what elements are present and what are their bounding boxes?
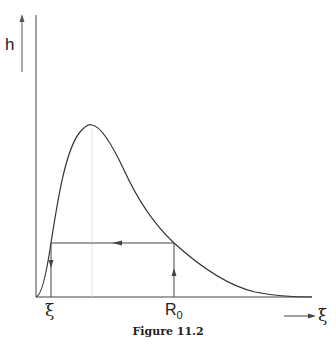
r0-marker-label: R0	[165, 301, 183, 321]
xi-axis-arrowhead-icon	[308, 314, 316, 319]
y-axis-label: h	[5, 35, 14, 55]
x-axis-label: ξ	[318, 305, 327, 325]
r0-base: R	[165, 301, 177, 318]
down-arrowhead-icon	[49, 260, 54, 268]
up-arrowhead-icon	[172, 268, 177, 276]
xi-marker-label: ξ	[45, 300, 54, 320]
left-arrowhead-icon	[112, 241, 122, 246]
h-arrowhead-icon	[20, 14, 25, 22]
diagram-canvas	[0, 0, 336, 344]
r0-subscript: 0	[177, 309, 183, 321]
figure-caption: Figure 11.2	[0, 325, 336, 338]
